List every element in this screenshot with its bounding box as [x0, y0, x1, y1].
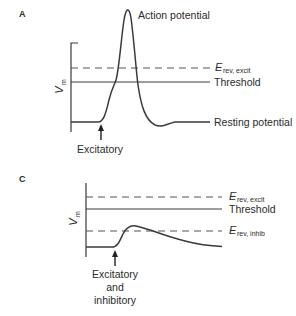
panel-a: A V m Excitatory Action potential E rev,… [19, 9, 292, 155]
erev-excit-label: E [215, 61, 223, 73]
threshold-label: Threshold [229, 203, 276, 215]
action-potential-label: Action potential [138, 9, 210, 21]
threshold-label: Threshold [214, 76, 261, 88]
panel-c: C V m Excitatory and inhibitory E rev, e… [19, 174, 276, 306]
erev-inhib-sub: rev, inhib [237, 230, 265, 237]
stimulus-label-line3: inhibitory [94, 294, 137, 306]
diagram-canvas: A V m Excitatory Action potential E rev,… [0, 0, 296, 316]
stimulus-label: Excitatory [77, 143, 124, 155]
erev-inhib-label: E [229, 224, 237, 236]
y-axis-label: V m [53, 79, 67, 94]
stimulus-label-line2: and [106, 281, 124, 293]
y-axis [71, 43, 78, 132]
svg-text:m: m [60, 79, 67, 85]
erev-excit-sub: rev, excit [223, 67, 251, 74]
svg-text:m: m [74, 211, 81, 217]
svg-text:V: V [53, 85, 65, 94]
panel-letter: C [19, 174, 26, 184]
psp-trace [86, 226, 222, 247]
action-potential-trace [71, 10, 210, 126]
stimulus-label-line1: Excitatory [92, 268, 139, 280]
erev-excit-sub: rev, excit [237, 196, 265, 203]
svg-text:V: V [67, 217, 79, 226]
panel-letter: A [19, 9, 26, 19]
arrow-head-icon [98, 124, 104, 131]
erev-excit-label: E [229, 190, 237, 202]
resting-potential-label: Resting potential [214, 116, 292, 128]
y-axis-label: V m [67, 211, 81, 226]
arrow-head-icon [112, 250, 118, 257]
